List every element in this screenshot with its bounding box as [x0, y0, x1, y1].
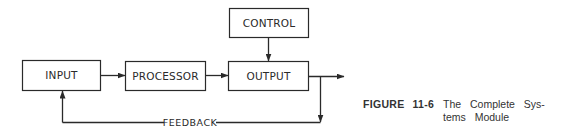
processor-block: PROCESSOR: [126, 62, 206, 91]
feedback-loop: FEEDBACK: [63, 77, 321, 129]
processor-label: PROCESSOR: [132, 70, 199, 82]
figure-number: 11-6: [412, 98, 434, 110]
figure-id: FIGURE11-6: [363, 98, 443, 111]
figure-title-line2: tems Module: [443, 111, 509, 123]
figure-caption: FIGURE11-6The Complete Sys-tems Module: [363, 98, 563, 124]
output-block: OUTPUT: [229, 62, 309, 91]
control-label: CONTROL: [243, 17, 296, 29]
input-block: INPUT: [23, 61, 101, 91]
figure-title-line1: The Complete Sys-: [443, 98, 545, 110]
feedback-label: FEEDBACK: [163, 117, 218, 128]
output-label: OUTPUT: [247, 70, 291, 82]
input-label: INPUT: [45, 69, 78, 81]
control-block: CONTROL: [230, 9, 309, 38]
figure-word: FIGURE: [363, 98, 404, 110]
figure-title: The Complete Sys-tems Module: [443, 98, 553, 124]
